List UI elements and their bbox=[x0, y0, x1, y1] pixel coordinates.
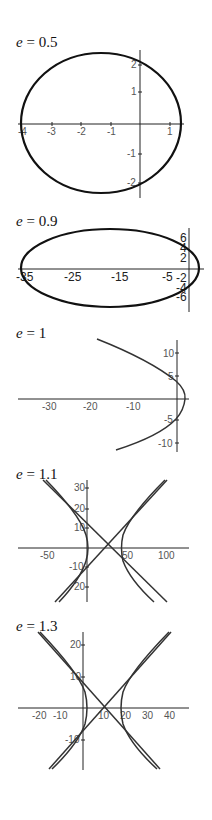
tick-label: -10 bbox=[126, 401, 141, 412]
asymptote-line bbox=[38, 632, 160, 769]
tick-label: 30 bbox=[74, 482, 86, 493]
plot-e-0.5: e = 0.5 -4 -3 -2 -1 1 2 1 -1 -2 bbox=[16, 34, 184, 198]
tick-label: -50 bbox=[40, 550, 55, 561]
plot-e-1.3: e = 1.3 -20 -10 10 20 30 40 20 10 -10 bbox=[16, 618, 189, 770]
hyperbola-right-branch bbox=[121, 632, 169, 769]
tick-label: -1 bbox=[127, 148, 136, 159]
plot-e-1: e = 1 -30 -20 -10 10 5 -5 -10 bbox=[16, 325, 189, 452]
tick-label: -3 bbox=[47, 126, 56, 137]
tick-label: -1 bbox=[107, 126, 116, 137]
ellipse-curve bbox=[21, 53, 181, 193]
tick-label: -25 bbox=[64, 270, 82, 284]
conic-sections-figure: e = 0.5 -4 -3 -2 -1 1 2 1 -1 -2 e = 0.9 … bbox=[0, 0, 212, 820]
tick-label: 100 bbox=[158, 550, 175, 561]
plot-title: e = 0.5 bbox=[16, 34, 57, 50]
plot-title: e = 1.1 bbox=[16, 466, 57, 482]
ellipse-curve bbox=[21, 229, 199, 307]
plot-title: e = 0.9 bbox=[16, 213, 57, 229]
tick-label: 40 bbox=[164, 710, 176, 721]
tick-label: -10 bbox=[158, 438, 173, 449]
tick-label: -10 bbox=[53, 710, 68, 721]
tick-label: -20 bbox=[32, 710, 47, 721]
tick-label: -2 bbox=[77, 126, 86, 137]
plot-e-0.9: e = 0.9 -35 -25 -15 -5 6 4 2 -2 -4 -6 bbox=[16, 213, 204, 312]
tick-label: 1 bbox=[167, 126, 173, 137]
tick-label: 20 bbox=[70, 639, 82, 650]
tick-label: -35 bbox=[16, 270, 34, 284]
hyperbola-right-branch bbox=[122, 480, 166, 602]
tick-label: 1 bbox=[131, 86, 137, 97]
plot-title: e = 1.3 bbox=[16, 618, 57, 634]
tick-label: -5 bbox=[162, 270, 173, 284]
hyperbola-left-branch bbox=[40, 632, 87, 769]
tick-label: -15 bbox=[111, 270, 129, 284]
tick-label: -20 bbox=[83, 401, 98, 412]
asymptote-line bbox=[55, 480, 167, 602]
tick-label: 2 bbox=[180, 251, 187, 265]
plot-e-1.1: e = 1.1 -50 50 100 30 20 10 -10 20 bbox=[16, 466, 189, 602]
asymptote-line bbox=[49, 632, 171, 769]
tick-label: 30 bbox=[142, 710, 154, 721]
plot-title: e = 1 bbox=[16, 325, 46, 341]
tick-label: 10 bbox=[163, 348, 175, 359]
tick-label: -30 bbox=[42, 401, 57, 412]
